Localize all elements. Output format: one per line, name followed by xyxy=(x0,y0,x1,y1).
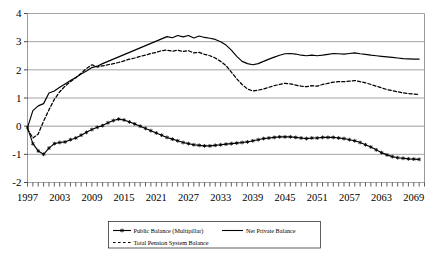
ytick-label-1: 1 xyxy=(16,92,22,104)
xtick-label-2063: 2063 xyxy=(371,192,392,203)
line-chart: -2-101234 199720032009201520212027203320… xyxy=(0,0,446,261)
chart-legend: Public Balance (Multipillar)Net Private … xyxy=(109,222,321,249)
chart-container: -2-101234 199720032009201520212027203320… xyxy=(0,0,446,261)
xtick-label-2003: 2003 xyxy=(49,192,70,203)
xtick-label-2033: 2033 xyxy=(210,192,231,203)
ytick-label-3: 3 xyxy=(16,35,22,47)
legend-label-public-balance: Public Balance (Multipillar) xyxy=(134,227,204,235)
xtick-label-2015: 2015 xyxy=(114,192,135,203)
xtick-label-2069: 2069 xyxy=(403,192,424,203)
legend-label-net-private-balance: Net Private Balance xyxy=(246,227,296,234)
xtick-label-2045: 2045 xyxy=(275,192,296,203)
xtick-label-2057: 2057 xyxy=(339,192,360,203)
ytick-label--1: -1 xyxy=(12,148,21,160)
ytick-label-0: 0 xyxy=(16,120,22,132)
xtick-label-2009: 2009 xyxy=(81,192,102,203)
xtick-label-2039: 2039 xyxy=(242,192,263,203)
ytick-label--2: -2 xyxy=(12,176,21,188)
ytick-label-4: 4 xyxy=(16,7,22,19)
xtick-label-2021: 2021 xyxy=(146,192,167,203)
xtick-label-2027: 2027 xyxy=(178,192,199,203)
xtick-label-1997: 1997 xyxy=(17,192,38,203)
xtick-label-2051: 2051 xyxy=(307,192,328,203)
legend-label-total-pension-system-balance: Total Pension System Balance xyxy=(134,239,209,246)
ytick-label-2: 2 xyxy=(16,64,22,76)
